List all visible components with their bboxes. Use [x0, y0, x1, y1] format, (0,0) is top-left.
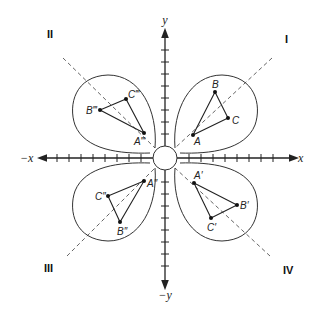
label-b-triple-prime: B‴ — [86, 105, 98, 116]
label-a-double-prime: A″ — [146, 178, 158, 189]
diagonal-line-q2 — [63, 58, 155, 148]
triangle-q3 — [108, 181, 144, 222]
quadrant-label-iv: IV — [283, 264, 294, 276]
label-b: B — [212, 79, 219, 90]
label-c-triple-prime: C‴ — [128, 89, 140, 100]
triangle-q2 — [100, 99, 144, 133]
diagonal-line-q3 — [67, 168, 155, 256]
label-c-prime: C′ — [207, 222, 217, 233]
label-a-prime: A′ — [193, 170, 204, 181]
quadrant-label-ii: II — [47, 28, 53, 40]
petal-q3 — [73, 163, 156, 241]
triangle-q4 — [194, 183, 237, 218]
rotation-diagram: A B C A‴ B‴ C‴ A″ C″ B″ A′ B′ C′ x −x y … — [0, 0, 325, 317]
label-c: C — [232, 115, 240, 126]
x-axis-label: x — [297, 151, 304, 165]
center-circle — [153, 146, 177, 170]
quadrant-label-i: I — [285, 33, 288, 45]
quadrant-label-iii: III — [44, 262, 53, 274]
label-a: A — [193, 136, 201, 147]
label-c-double-prime: C″ — [95, 191, 106, 202]
label-b-double-prime: B″ — [117, 226, 128, 237]
neg-y-axis-label: −y — [158, 288, 172, 302]
neg-x-axis-label: −x — [20, 151, 34, 165]
label-a-triple-prime: A‴ — [133, 136, 146, 147]
triangle-q1 — [193, 92, 228, 135]
label-b-prime: B′ — [240, 200, 250, 211]
y-axis-label: y — [161, 13, 168, 27]
